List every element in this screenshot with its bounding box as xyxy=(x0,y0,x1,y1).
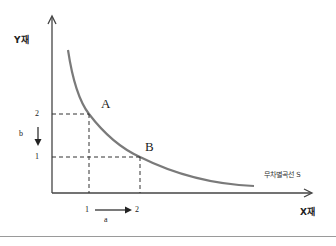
indifference-curve-diagram xyxy=(0,0,336,246)
b-arrowhead xyxy=(35,139,42,146)
y-tick-1: 1 xyxy=(35,153,39,161)
b-label: b xyxy=(19,130,23,138)
point-a-label: A xyxy=(101,97,110,110)
x-axis-label: X재 xyxy=(300,208,315,217)
curve-label: 무차별곡선 S xyxy=(264,172,301,179)
a-arrowhead xyxy=(125,207,132,214)
indifference-curve xyxy=(68,50,254,186)
y-tick-2: 2 xyxy=(35,110,39,118)
y-axis-label: Y재 xyxy=(14,36,29,45)
a-label: a xyxy=(104,216,108,224)
point-b-label: B xyxy=(145,140,154,153)
x-tick-2: 2 xyxy=(135,206,139,214)
x-tick-1: 1 xyxy=(85,206,89,214)
bottom-divider xyxy=(0,236,336,237)
